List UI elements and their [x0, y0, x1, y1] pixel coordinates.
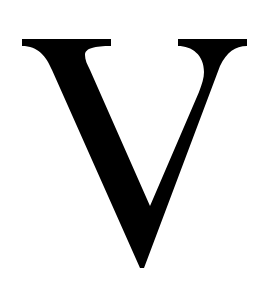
- serif-letter-v-glyph: [0, 0, 273, 285]
- letter-canvas: V: [0, 0, 273, 285]
